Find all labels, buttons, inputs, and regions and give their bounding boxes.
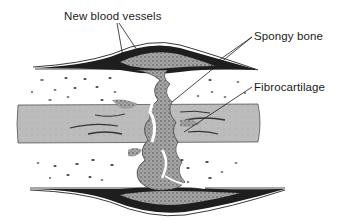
label-spongy-bone: Spongy bone <box>254 30 323 42</box>
label-fibrocartilage: Fibrocartilage <box>254 81 325 93</box>
label-new-blood-vessels: New blood vessels <box>64 10 162 22</box>
leader-new-blood-vessels-2 <box>119 23 137 50</box>
marrow-cavity <box>17 104 260 143</box>
external-callus-bottom <box>30 187 285 216</box>
